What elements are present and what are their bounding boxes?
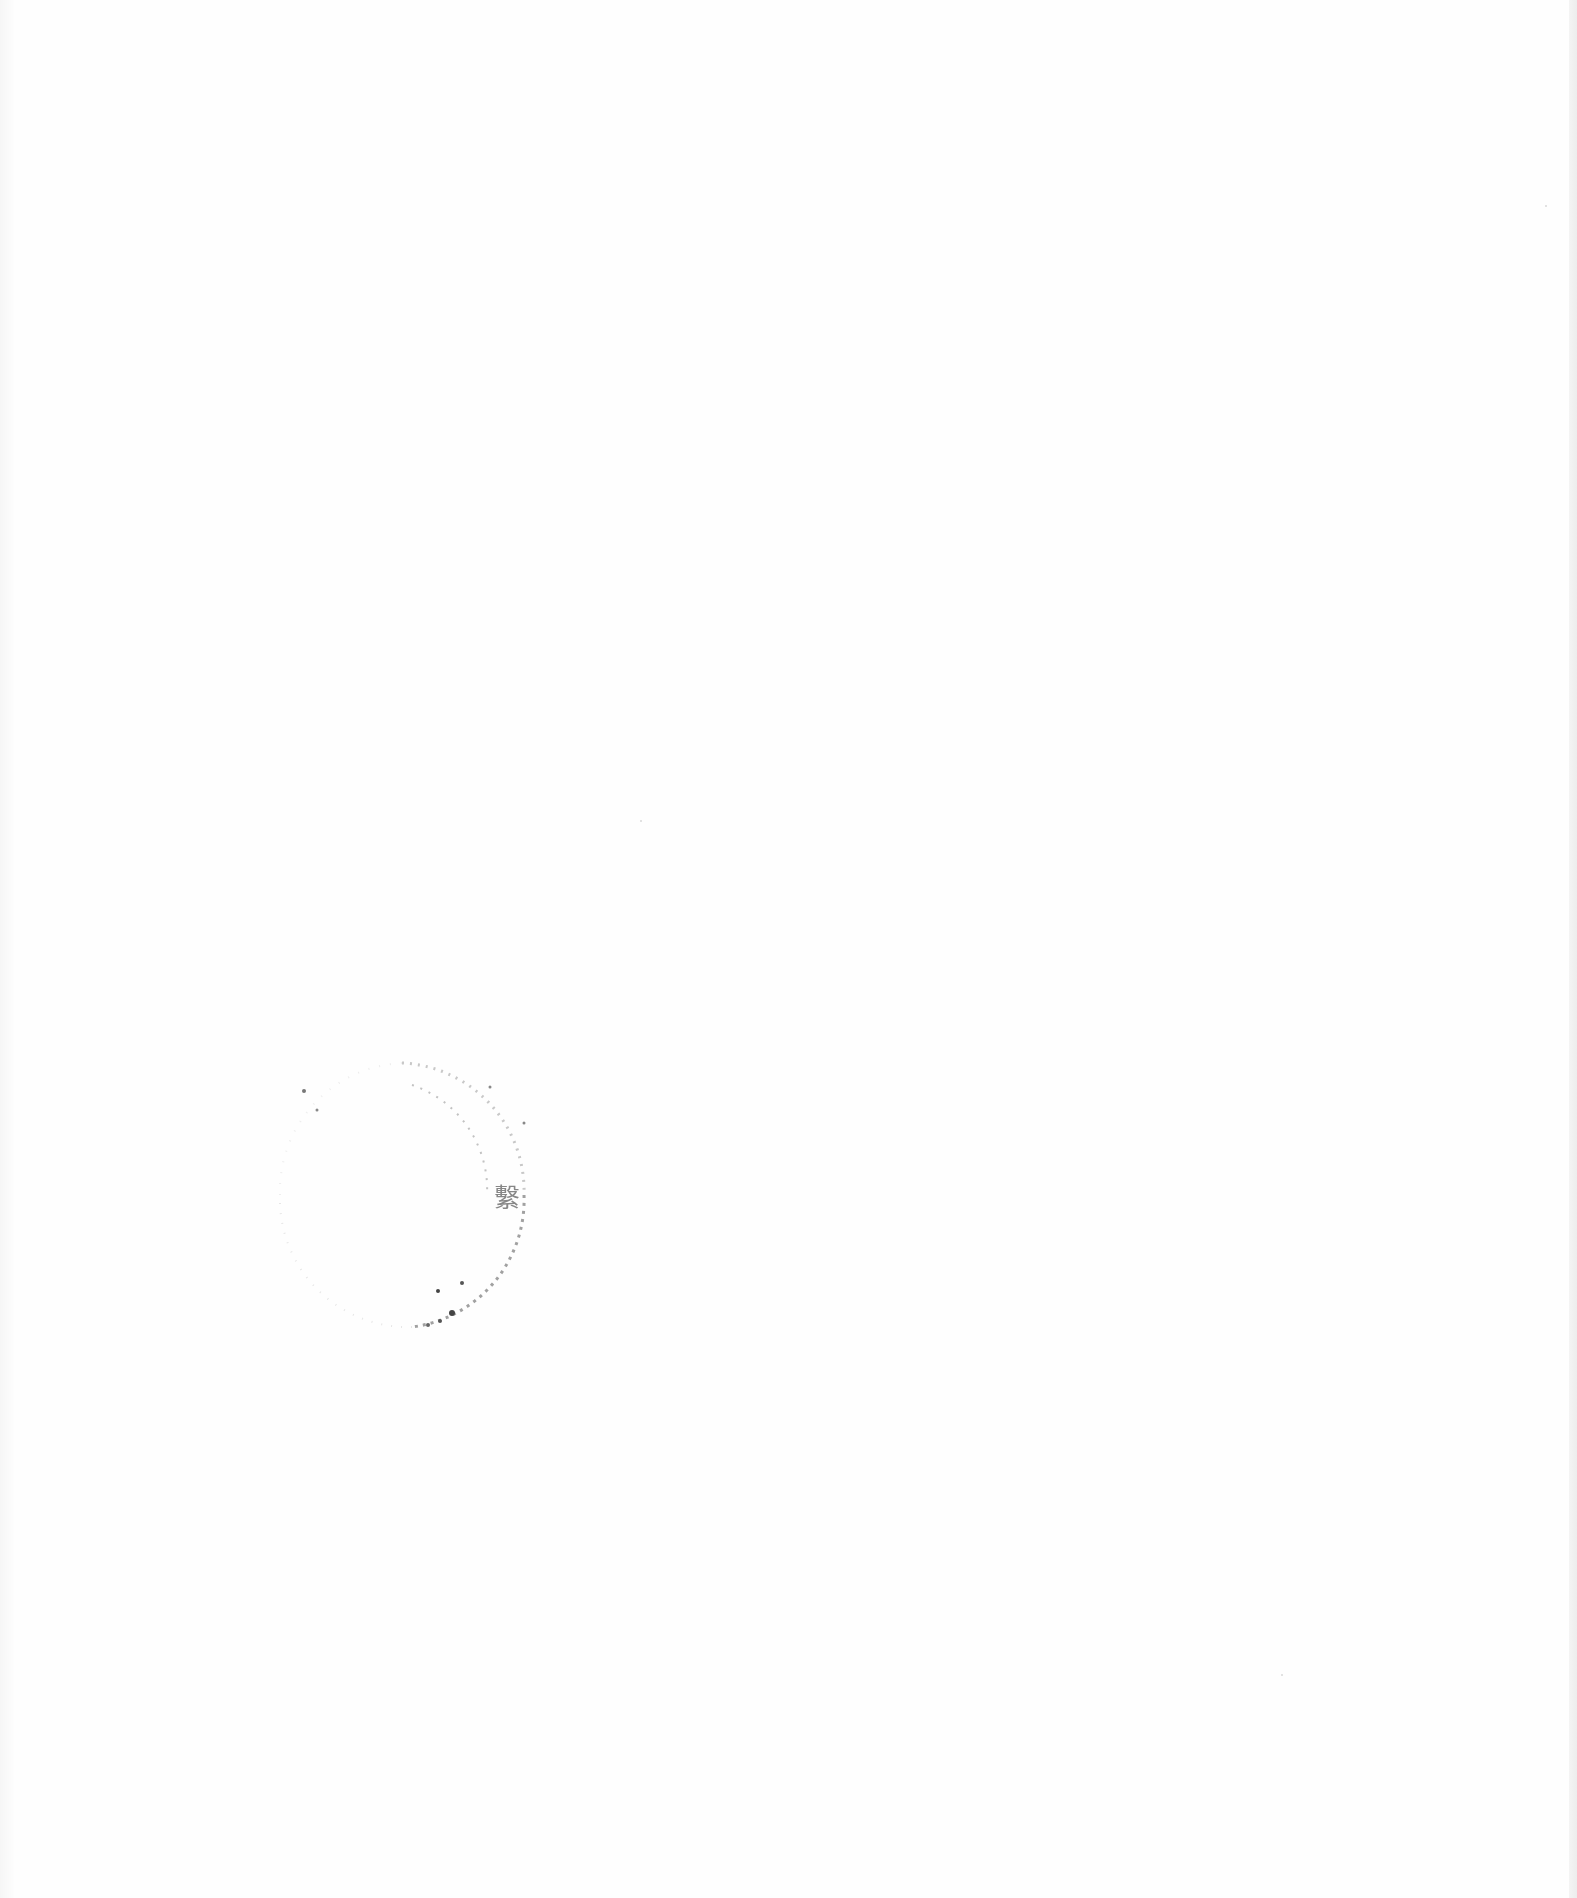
seal-character: 繫 xyxy=(494,1185,520,1211)
official-seal-stamp: 繫 xyxy=(262,1045,542,1335)
scan-edge-right xyxy=(1569,0,1577,1898)
scan-speck xyxy=(1545,205,1547,207)
scanned-page: 繫 xyxy=(0,0,1577,1898)
scan-speck xyxy=(1281,1674,1283,1676)
scan-edge-left xyxy=(0,0,14,1898)
scan-speck xyxy=(640,820,642,822)
